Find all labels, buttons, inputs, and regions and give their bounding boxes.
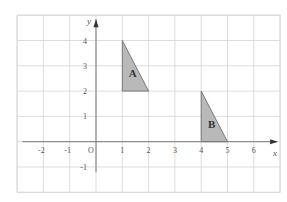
x-tick-label: 2 <box>147 146 151 155</box>
x-tick-label: 5 <box>226 146 230 155</box>
x-tick-label: 4 <box>199 146 203 155</box>
y-tick-label: 4 <box>83 37 87 46</box>
y-tick-label: -1 <box>80 163 87 172</box>
x-tick-label: 6 <box>252 146 256 155</box>
y-tick-label: 1 <box>83 112 87 121</box>
x-axis-arrow-icon <box>270 139 278 144</box>
x-tick-label: -2 <box>38 146 45 155</box>
triangle-label-b: B <box>208 118 216 130</box>
origin-label: O <box>88 146 94 155</box>
y-axis-arrow-icon <box>94 19 99 27</box>
coordinate-plane: AB x y O -2-11234564321-1 <box>0 0 287 202</box>
x-tick-label: -1 <box>64 146 71 155</box>
triangle-label-a: A <box>129 67 137 79</box>
x-tick-label: 3 <box>173 146 177 155</box>
x-tick-label: 1 <box>120 146 124 155</box>
y-tick-label: 2 <box>83 87 87 96</box>
grid-lines <box>17 15 280 192</box>
axis-labels: x y O -2-11234564321-1 <box>38 16 277 172</box>
coordinate-grid-diagram: AB x y O -2-11234564321-1 <box>0 0 287 202</box>
x-axis-label: x <box>272 148 277 158</box>
y-tick-label: 3 <box>83 62 87 71</box>
y-axis-label: y <box>86 16 91 26</box>
